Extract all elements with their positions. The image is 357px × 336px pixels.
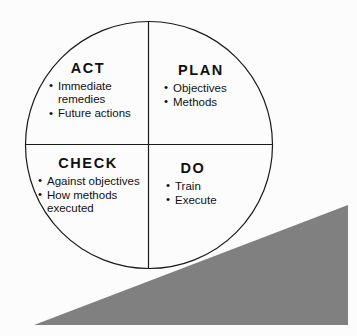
list-item: •Train [166, 180, 254, 193]
quadrant-plan-list: •Objectives •Methods [164, 82, 258, 109]
list-item: •Objectives [164, 82, 258, 95]
quadrant-plan: PLAN •Objectives •Methods [154, 62, 258, 110]
quadrant-check-list: •Against objectives •How methods execute… [38, 175, 145, 216]
list-item-label: Objectives [173, 82, 227, 94]
list-item-label: Immediate remedies [58, 80, 112, 105]
list-item: •Against objectives [38, 175, 145, 188]
quadrant-check: CHECK •Against objectives •How methods e… [33, 155, 145, 216]
list-item: •Immediate remedies [49, 80, 142, 107]
bullet-icon: • [166, 179, 170, 192]
bullet-icon: • [49, 79, 53, 92]
bullet-icon: • [38, 188, 42, 201]
quadrant-act: ACT •Immediate remedies •Future actions [38, 60, 142, 121]
list-item-label: Future actions [58, 107, 131, 119]
quadrant-plan-title: PLAN [154, 62, 258, 79]
list-item-label: Train [175, 180, 201, 192]
list-item: •Methods [164, 96, 258, 109]
bullet-icon: • [49, 107, 53, 120]
quadrant-act-title: ACT [38, 60, 142, 77]
list-item-label: Execute [175, 194, 217, 206]
list-item-label: Against objectives [47, 175, 140, 187]
list-item: •How methods executed [38, 189, 145, 216]
list-item: •Execute [166, 194, 254, 207]
quadrant-check-title: CHECK [33, 155, 145, 172]
list-item-label: Methods [173, 96, 217, 108]
list-item: •Future actions [49, 107, 142, 120]
bullet-icon: • [166, 193, 170, 206]
list-item-label: How methods executed [47, 189, 117, 214]
quadrant-act-list: •Immediate remedies •Future actions [49, 80, 142, 121]
bullet-icon: • [38, 174, 42, 187]
quadrant-do-list: •Train •Execute [166, 180, 254, 207]
pdca-cycle-diagram: ACT •Immediate remedies •Future actions … [0, 0, 357, 336]
bullet-icon: • [164, 95, 168, 108]
quadrant-do: DO •Train •Execute [154, 160, 254, 208]
bullet-icon: • [164, 81, 168, 94]
quadrant-do-title: DO [154, 160, 254, 177]
